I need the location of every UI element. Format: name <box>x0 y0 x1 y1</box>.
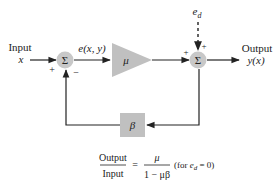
output-variable: y(x) <box>246 54 264 67</box>
amplifier-mu: μ <box>122 54 129 66</box>
formula-equals: = <box>132 159 138 170</box>
feedback-minus-sign: − <box>73 67 79 78</box>
formula-denominator: 1 − μβ <box>144 169 170 180</box>
formula-numerator-output: Output <box>99 152 127 163</box>
sigma-left: Σ <box>62 54 68 66</box>
disturbance-plus-sign: + <box>201 41 206 51</box>
feedback-block-diagram: Input x + Σ − e(x, y) μ + ed + Σ Output … <box>0 0 280 190</box>
output-label: Output <box>242 42 273 54</box>
input-plus-sign: + <box>49 64 55 75</box>
feedback-path-right <box>147 69 199 125</box>
error-signal-label: e(x, y) <box>78 42 106 55</box>
formula-condition: (for ed = 0) <box>174 160 214 172</box>
disturbance-label: ed <box>193 5 203 20</box>
formula-denominator-input: Input <box>102 168 123 179</box>
amplifier-triangle <box>112 43 152 77</box>
feedback-path-left <box>66 70 120 125</box>
transfer-function-formula: Output Input = μ 1 − μβ (for ed = 0) <box>99 152 214 180</box>
input-variable: x <box>18 53 24 65</box>
input-label: Input <box>8 41 31 53</box>
formula-numerator-mu: μ <box>153 152 159 163</box>
forward-plus-sign: + <box>183 47 188 57</box>
feedback-beta: β <box>129 119 136 131</box>
sigma-right: Σ <box>195 54 201 66</box>
